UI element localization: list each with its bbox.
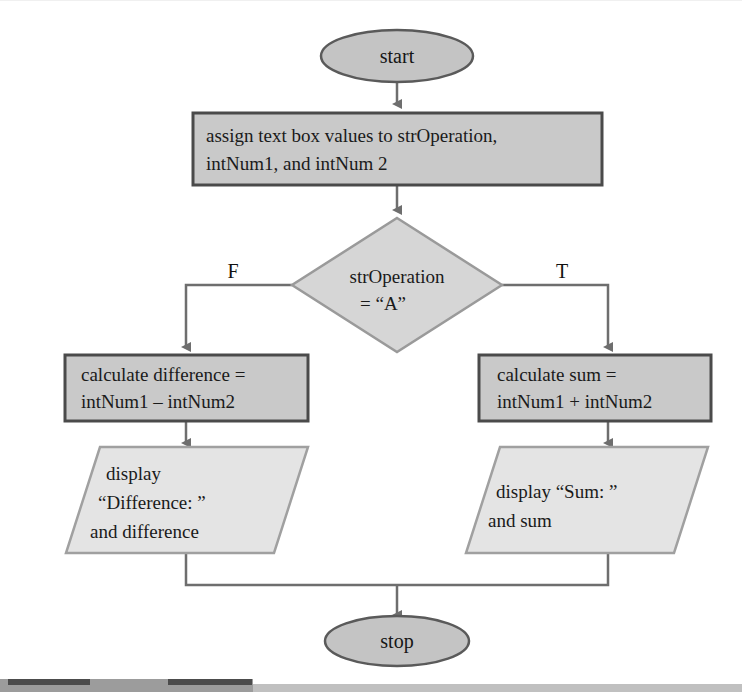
node-calculate-difference[interactable]: calculate difference = intNum1 – intNum2 — [65, 355, 308, 421]
node-decision[interactable]: strOperation = “A” — [292, 218, 502, 352]
display-sum-line-2: and sum — [488, 510, 552, 531]
difference-line-2: intNum1 – intNum2 — [81, 391, 235, 412]
display-difference-line-2: “Difference: ” — [98, 492, 206, 513]
connector-decision-false — [186, 285, 292, 347]
branch-label-false: F — [227, 260, 238, 282]
footer-bar-dark-segment-2 — [168, 679, 252, 685]
node-stop[interactable]: stop — [325, 616, 469, 666]
node-start[interactable]: start — [321, 30, 473, 82]
decision-line-1: strOperation — [350, 266, 445, 287]
connector-decision-true — [502, 285, 608, 347]
start-label: start — [380, 45, 415, 67]
sum-line-2: intNum1 + intNum2 — [497, 391, 652, 412]
decision-line-2: = “A” — [360, 293, 406, 314]
node-assign[interactable]: assign text box values to strOperation, … — [193, 113, 602, 185]
difference-line-1: calculate difference = — [81, 364, 245, 385]
stop-label: stop — [380, 630, 413, 653]
assign-box-shape — [193, 113, 602, 185]
connector-merge-left — [186, 553, 397, 585]
assign-line-2: intNum1, and intNum 2 — [206, 153, 388, 174]
node-display-sum[interactable]: display “Sum: ” and sum — [466, 447, 708, 553]
footer-bar-dark-segment-1 — [8, 679, 90, 685]
flowchart-svg: start assign text box values to strOpera… — [0, 0, 742, 696]
assign-line-1: assign text box values to strOperation, — [206, 125, 497, 146]
node-calculate-sum[interactable]: calculate sum = intNum1 + intNum2 — [479, 355, 711, 421]
node-display-difference[interactable]: display “Difference: ” and difference — [66, 447, 308, 553]
display-difference-line-1: display — [106, 463, 161, 484]
display-difference-line-3: and difference — [90, 521, 199, 542]
branch-label-true: T — [556, 260, 568, 282]
display-sum-line-1: display “Sum: ” — [496, 481, 617, 502]
flowchart-canvas: start assign text box values to strOpera… — [0, 0, 742, 696]
sum-line-1: calculate sum = — [497, 364, 616, 385]
connector-merge-right — [397, 553, 608, 585]
footer-decoration-bar — [0, 679, 742, 692]
